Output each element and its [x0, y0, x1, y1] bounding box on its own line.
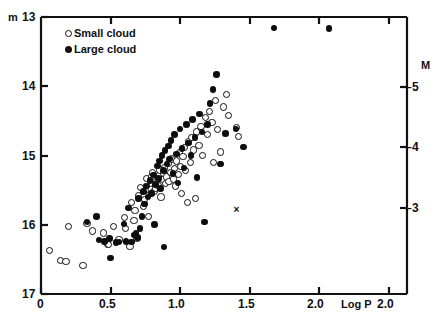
data-point-large-cloud — [148, 190, 155, 197]
data-point-large-cloud — [204, 121, 211, 128]
data-point-large-cloud — [171, 131, 178, 138]
x-axis-title: Log P — [341, 298, 372, 310]
y-right-tick-label-5: 5 — [412, 80, 419, 94]
data-point-small-cloud — [225, 112, 232, 119]
data-point-large-cloud — [217, 161, 224, 168]
x-tick-label-1-5: 1.5 — [238, 297, 255, 311]
y-axis-right-title: M — [421, 59, 430, 71]
data-point-large-cloud — [93, 213, 100, 220]
scatter-plot-figure: m 13 14 15 16 17 M 5 4 3 – – – 0 0.5 1.0… — [0, 0, 447, 320]
x-tick-label-0: 0 — [37, 297, 44, 311]
y-tick-label-16: 16 — [22, 218, 35, 232]
data-point-large-cloud — [210, 86, 217, 93]
data-point-large-cloud — [213, 71, 220, 78]
data-point-large-cloud — [107, 255, 114, 262]
x-tick-label-2-0: 2.0 — [307, 297, 324, 311]
data-point-small-cloud — [187, 159, 194, 166]
data-point-small-cloud — [223, 91, 230, 98]
legend: Small cloud Large cloud — [62, 26, 136, 58]
data-point-large-cloud — [137, 225, 144, 232]
data-point-small-cloud — [195, 142, 202, 149]
y-tick-label-14: 14 — [22, 79, 35, 93]
data-point-large-cloud — [160, 167, 167, 174]
data-point-large-cloud — [192, 134, 199, 141]
data-point-large-cloud — [201, 219, 208, 226]
y-right-tick-label-3: 3 — [412, 201, 419, 215]
y-right-dash-3: – — [405, 201, 412, 215]
data-point-small-cloud — [220, 103, 227, 110]
data-point-small-cloud — [157, 193, 164, 200]
y-right-dash-4: – — [405, 140, 412, 154]
data-point-small-cloud — [184, 199, 191, 206]
data-point-large-cloud — [134, 234, 141, 241]
data-point-large-cloud — [139, 213, 146, 220]
filled-circle-icon — [62, 46, 74, 53]
legend-label-large-cloud: Large cloud — [74, 43, 136, 55]
y-tick-label-17: 17 — [22, 287, 35, 301]
data-point-small-cloud — [212, 97, 219, 104]
data-point-large-cloud — [179, 145, 186, 152]
data-point-large-cloud — [173, 151, 180, 158]
y-tick-label-13: 13 — [22, 10, 35, 24]
data-point-small-cloud — [65, 223, 72, 230]
axis-frame — [41, 17, 407, 294]
data-point-small-cloud — [235, 133, 242, 140]
x-tick-label-0-5: 0.5 — [99, 297, 116, 311]
data-point-small-cloud — [130, 217, 137, 224]
data-point-large-cloud — [155, 175, 162, 182]
data-point-large-cloud — [141, 201, 148, 208]
data-point-large-cloud — [183, 121, 190, 128]
data-point-cross: × — [234, 205, 240, 215]
legend-label-small-cloud: Small cloud — [74, 27, 136, 39]
open-circle-icon — [62, 30, 74, 37]
data-point-small-cloud — [217, 148, 224, 155]
y-axis-left-title: m — [8, 11, 18, 23]
data-point-large-cloud — [196, 111, 203, 118]
data-point-large-cloud — [188, 152, 195, 159]
legend-item-small-cloud: Small cloud — [62, 26, 136, 40]
data-point-large-cloud — [151, 221, 158, 228]
data-point-large-cloud — [189, 116, 196, 123]
data-point-large-cloud — [106, 235, 113, 242]
data-point-small-cloud — [145, 213, 152, 220]
data-point-large-cloud — [222, 130, 229, 137]
data-point-small-cloud — [79, 262, 86, 269]
data-point-small-cloud — [89, 227, 96, 234]
legend-item-large-cloud: Large cloud — [62, 42, 136, 56]
x-tick-label-1-0: 1.0 — [168, 297, 185, 311]
y-right-tick-label-4: 4 — [412, 140, 419, 154]
data-point-large-cloud — [170, 170, 177, 177]
x-tick-label-last: 2.0 — [377, 297, 394, 311]
y-tick-label-15: 15 — [22, 149, 35, 163]
data-point-large-cloud — [135, 195, 142, 202]
data-point-small-cloud — [62, 258, 69, 265]
data-point-large-cloud — [157, 185, 164, 192]
y-right-dash-5: – — [405, 80, 412, 94]
data-point-large-cloud — [185, 140, 192, 147]
